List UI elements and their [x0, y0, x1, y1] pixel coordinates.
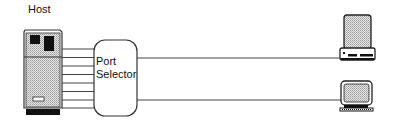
- port-selector-label: Port Selector: [96, 55, 136, 81]
- port-selector-label-line2: Selector: [96, 68, 136, 81]
- port-selector-label-line1: Port: [96, 55, 136, 68]
- host-selector-connections: [62, 49, 94, 108]
- host-label: Host: [28, 3, 51, 15]
- selector-terminal-connections: [137, 58, 344, 100]
- host-computer-icon: [24, 30, 62, 115]
- desktop-terminal-icon: [340, 15, 375, 60]
- diagram-canvas: [0, 0, 394, 125]
- monitor-terminal-icon: [340, 81, 373, 111]
